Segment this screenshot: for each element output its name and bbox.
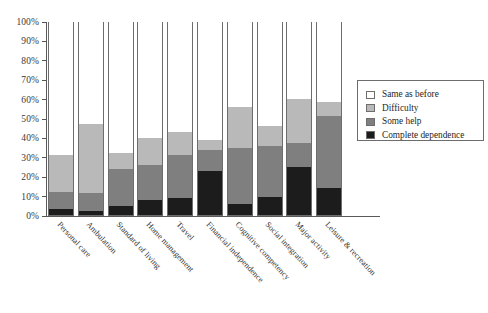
bar-column[interactable] [167, 22, 193, 216]
legend-label: Difficulty [382, 102, 419, 115]
legend-swatch [366, 118, 375, 126]
bar-column[interactable] [48, 22, 74, 216]
y-axis-tick: 60% [0, 92, 48, 108]
y-axis-tick: 30% [0, 150, 48, 166]
bar-segment [198, 171, 222, 215]
y-axis-tick: 10% [0, 189, 48, 205]
y-axis-tick-label: 70% [21, 72, 39, 88]
legend-swatch [366, 91, 375, 99]
bar-segment [258, 126, 282, 146]
bar-segment [79, 211, 103, 215]
chart-legend: Same as beforeDifficultySome helpComplet… [357, 80, 484, 141]
bar-column[interactable] [137, 22, 163, 216]
bar-column[interactable] [316, 22, 342, 216]
bar-segment [79, 21, 103, 124]
bar-column[interactable] [78, 22, 104, 216]
bar-segment [228, 204, 252, 215]
chart-figure: 0%10%20%30%40%50%60%70%80%90%100% Same a… [0, 0, 488, 313]
bar-segment [109, 169, 133, 206]
bar-segment [258, 197, 282, 215]
bar-segment [198, 21, 222, 140]
y-axis-spine [46, 22, 47, 217]
bar-segment [258, 146, 282, 196]
bar-segment [198, 150, 222, 171]
legend-label: Complete dependence [382, 129, 464, 142]
y-axis-tick-label: 40% [21, 130, 39, 146]
legend-label: Some help [382, 115, 422, 128]
y-axis-tick: 90% [0, 33, 48, 49]
legend-swatch [366, 131, 375, 139]
bar-column[interactable] [227, 22, 253, 216]
bar-segment [287, 167, 311, 216]
bar-column[interactable] [197, 22, 223, 216]
y-axis-tick: 50% [0, 111, 48, 127]
bar-segment [228, 148, 252, 204]
y-axis-tick-label: 10% [21, 189, 39, 205]
bar-segment [287, 21, 311, 99]
y-axis-tick-label: 0% [26, 208, 39, 224]
y-axis-tick: 40% [0, 130, 48, 146]
y-axis: 0%10%20%30%40%50%60%70%80%90%100% [0, 14, 48, 224]
bar-segment [49, 155, 73, 192]
x-axis-baseline [46, 216, 380, 217]
bar-segment [228, 107, 252, 148]
y-axis-tick: 70% [0, 72, 48, 88]
bar-segment [258, 21, 282, 126]
bar-segment [168, 132, 192, 155]
x-axis-category-label: Cognitive competency [234, 220, 292, 282]
y-axis-tick-label: 20% [21, 169, 39, 185]
bar-segment [168, 21, 192, 132]
bar-column[interactable] [108, 22, 134, 216]
bar-segment [49, 209, 73, 215]
x-axis-category-label: Financial independence [204, 220, 265, 284]
bar-column[interactable] [257, 22, 283, 216]
bar-segment [138, 138, 162, 164]
bar-segment [49, 192, 73, 209]
y-axis-tick-label: 30% [21, 150, 39, 166]
bar-segment [138, 21, 162, 138]
bar-segment [168, 155, 192, 198]
bar-column[interactable] [286, 22, 312, 216]
bar-segment [317, 102, 341, 117]
bar-segment [168, 198, 192, 215]
bar-segment [79, 193, 103, 211]
x-axis-category-label: Leisure & recreation [323, 220, 377, 277]
bar-segment [79, 124, 103, 193]
bar-segment [138, 200, 162, 215]
y-axis-tick: 0% [0, 208, 48, 224]
y-axis-tick: 100% [0, 14, 48, 30]
y-axis-tick: 80% [0, 53, 48, 69]
y-axis-tick-label: 60% [21, 92, 39, 108]
y-axis-tick-label: 50% [21, 111, 39, 127]
y-axis-tick: 20% [0, 169, 48, 185]
bar-segment [109, 153, 133, 169]
bar-segment [287, 99, 311, 144]
bar-segment [109, 21, 133, 153]
bar-segment [287, 143, 311, 166]
legend-label: Same as before [382, 88, 439, 101]
bar-segment [317, 116, 341, 188]
bar-segment [138, 165, 162, 201]
bar-segment [109, 206, 133, 215]
bar-segment [198, 140, 222, 150]
bar-segment [317, 21, 341, 102]
y-axis-tick-label: 90% [21, 33, 39, 49]
x-axis-category-label: Travel [174, 220, 195, 242]
bar-segment [228, 21, 252, 107]
y-axis-tick-label: 100% [16, 14, 39, 30]
y-axis-tick-label: 80% [21, 53, 39, 69]
legend-swatch [366, 104, 375, 112]
bar-segment [317, 188, 341, 215]
bar-segment [49, 21, 73, 155]
